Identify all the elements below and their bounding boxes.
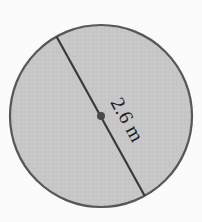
center-dot: [97, 112, 105, 120]
figure-canvas: 2.6 m: [0, 0, 202, 222]
circle-diameter-figure: 2.6 m: [0, 0, 202, 222]
